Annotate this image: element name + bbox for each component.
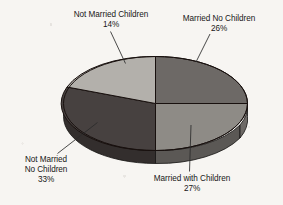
label-not-married-children: Not Married Children 14% bbox=[55, 10, 167, 30]
label-not-married-no-children: Not Married No Children 33% bbox=[4, 155, 88, 186]
leader-line-not-married-children bbox=[111, 32, 126, 64]
pie-chart: Not Married Children 14% Married No Chil… bbox=[0, 0, 283, 205]
label-not-married-no-children-text-line2: No Children bbox=[4, 165, 88, 175]
label-married-with-children-value: 27% bbox=[133, 184, 251, 194]
label-not-married-children-value: 14% bbox=[55, 20, 167, 30]
leader-line-married-no-children bbox=[196, 34, 210, 62]
label-married-no-children: Married No Children 26% bbox=[163, 14, 275, 34]
label-not-married-no-children-value: 33% bbox=[4, 175, 88, 185]
label-married-with-children: Married with Children 27% bbox=[133, 174, 251, 194]
label-not-married-no-children-text-line1: Not Married bbox=[25, 155, 67, 164]
label-married-no-children-text: Married No Children bbox=[183, 14, 255, 23]
pie-slice-married-no-children bbox=[156, 57, 248, 104]
label-not-married-children-text: Not Married Children bbox=[74, 10, 149, 19]
label-married-no-children-value: 26% bbox=[163, 24, 275, 34]
label-married-with-children-text: Married with Children bbox=[154, 174, 230, 183]
